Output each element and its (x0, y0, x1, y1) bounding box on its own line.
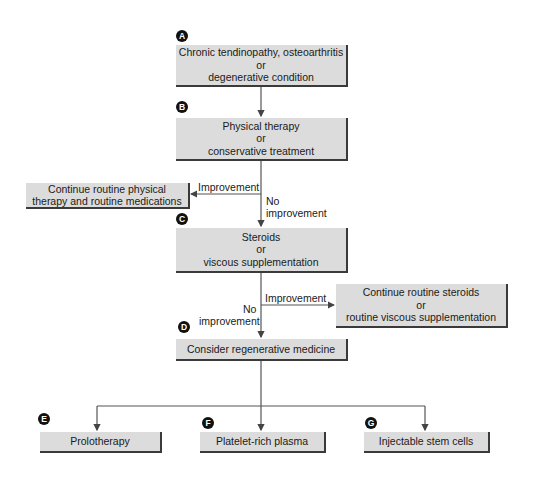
node-a-line-2: or (256, 59, 265, 72)
flowchart: A Chronic tendinopathy, osteoarthritis o… (0, 0, 533, 478)
node-c-line-2: or (256, 243, 265, 256)
node-f-line-1: Platelet-rich plasma (216, 435, 308, 448)
node-injectable-stem-cells: Injectable stem cells (364, 432, 490, 453)
node-c-alt-line-3: routine viscous supplementation (346, 311, 496, 324)
node-d-line-1: Consider regenerative medicine (187, 343, 335, 356)
edge-label-c-improvement: Improvement (265, 292, 326, 305)
badge-c: C (176, 213, 188, 225)
node-c-line-1: Steroids (242, 231, 281, 244)
node-physical-therapy: Physical therapy or conservative treatme… (176, 118, 348, 161)
node-b-alt-line-2: therapy and routine medications (32, 195, 181, 208)
badge-a: A (176, 30, 188, 42)
badge-e: E (38, 413, 50, 425)
node-c-alt-line-2: or (416, 299, 425, 312)
node-b-alt-line-1: Continue routine physical (48, 183, 166, 196)
node-b-line-1: Physical therapy (222, 120, 299, 133)
node-steroids: Steroids or viscous supplementation (176, 228, 348, 273)
node-c-line-3: viscous supplementation (204, 256, 319, 269)
node-chronic-condition: Chronic tendinopathy, osteoarthritis or … (176, 45, 348, 87)
edge-label-b-no-improvement-1: No (266, 195, 279, 208)
badge-f: F (202, 417, 214, 429)
node-e-line-1: Prolotherapy (70, 435, 130, 448)
node-g-line-1: Injectable stem cells (379, 435, 474, 448)
node-c-alt-line-1: Continue routine steroids (363, 286, 480, 299)
node-continue-physical-therapy: Continue routine physical therapy and ro… (26, 183, 190, 209)
node-b-line-2: or (256, 132, 265, 145)
edge-label-b-no-improvement-2: improvement (266, 207, 327, 220)
node-a-line-3: degenerative condition (208, 71, 314, 84)
node-platelet-rich-plasma: Platelet-rich plasma (200, 432, 326, 453)
badge-d: D (178, 321, 190, 333)
edge-label-b-improvement: Improvement (198, 181, 259, 194)
node-b-line-3: conservative treatment (208, 145, 314, 158)
edge-label-c-no-improvement-1: No (243, 303, 256, 316)
edge-label-c-no-improvement-2: improvement (199, 315, 260, 328)
node-continue-steroids: Continue routine steroids or routine vis… (336, 284, 508, 328)
node-a-line-1: Chronic tendinopathy, osteoarthritis (179, 46, 343, 59)
badge-b: B (176, 101, 188, 113)
node-prolotherapy: Prolotherapy (40, 432, 162, 453)
node-regenerative-medicine: Consider regenerative medicine (176, 339, 348, 361)
badge-g: G (365, 417, 377, 429)
